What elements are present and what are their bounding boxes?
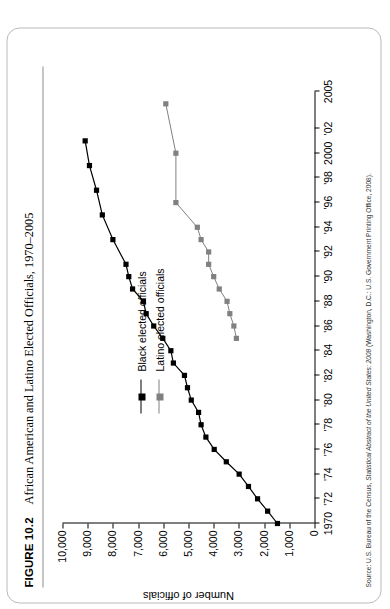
legend-item: Black elected officials xyxy=(132,268,150,413)
y-tick-label: 8,000 xyxy=(107,530,118,556)
x-axis-line xyxy=(314,91,315,523)
series-marker xyxy=(126,274,131,279)
x-tick-label: 1970 xyxy=(322,511,333,534)
legend-label: Black elected officials xyxy=(135,271,147,371)
y-tick xyxy=(238,523,239,528)
y-tick-label: 2,000 xyxy=(258,530,269,556)
y-tick xyxy=(62,523,63,528)
figure-number: FIGURE 10.2 xyxy=(22,517,34,587)
rotated-figure-canvas: FIGURE 10.2African American and Latino E… xyxy=(0,0,390,609)
y-tick xyxy=(112,523,113,528)
y-tick xyxy=(163,523,164,528)
x-tick xyxy=(314,522,319,523)
series-marker xyxy=(227,311,232,316)
x-tick-label: '02 xyxy=(322,121,333,135)
x-tick xyxy=(314,250,319,251)
x-tick xyxy=(314,152,319,153)
x-tick-label: '78 xyxy=(322,417,333,431)
series-marker xyxy=(224,298,229,303)
x-tick-label: '86 xyxy=(322,319,333,333)
series-marker xyxy=(216,286,221,291)
x-tick xyxy=(314,201,319,202)
legend-swatch xyxy=(152,379,166,413)
chart-series-layer xyxy=(62,91,314,523)
x-tick xyxy=(314,90,319,91)
y-tick xyxy=(213,523,214,528)
x-tick-label: '90 xyxy=(322,269,333,283)
y-tick xyxy=(289,523,290,528)
x-tick-label: '80 xyxy=(322,393,333,407)
y-tick-label: 7,000 xyxy=(132,530,143,556)
x-tick-label: '74 xyxy=(322,467,333,481)
series-marker xyxy=(184,385,189,390)
x-tick xyxy=(314,473,319,474)
series-marker xyxy=(236,471,241,476)
series-marker xyxy=(181,372,186,377)
series-marker xyxy=(99,212,104,217)
y-tick xyxy=(188,523,189,528)
series-marker xyxy=(194,224,199,229)
legend-marker xyxy=(156,393,163,400)
series-marker xyxy=(254,496,259,501)
series-marker xyxy=(223,459,228,464)
figure-source-note: Source: U.S. Bureau of the Census, Stati… xyxy=(364,42,371,587)
y-tick-label: 5,000 xyxy=(183,530,194,556)
series-marker xyxy=(110,237,115,242)
series-marker xyxy=(206,261,211,266)
x-tick-label: '92 xyxy=(322,245,333,259)
x-tick xyxy=(314,127,319,128)
x-tick-label: '94 xyxy=(322,220,333,234)
series-marker xyxy=(123,261,128,266)
x-tick xyxy=(314,448,319,449)
series-marker xyxy=(86,162,91,167)
series-marker xyxy=(163,101,168,106)
x-tick-label: '82 xyxy=(322,368,333,382)
x-tick xyxy=(314,399,319,400)
series-marker xyxy=(188,397,193,402)
chart-legend: Black elected officialsLatino elected of… xyxy=(132,268,168,413)
series-marker xyxy=(198,237,203,242)
y-tick-label: 0 xyxy=(309,530,320,536)
series-line xyxy=(85,140,277,523)
y-tick-label: 6,000 xyxy=(158,530,169,556)
series-marker xyxy=(170,360,175,365)
series-marker xyxy=(195,409,200,414)
x-tick xyxy=(314,497,319,498)
series-marker xyxy=(173,150,178,155)
series-marker xyxy=(198,422,203,427)
y-tick xyxy=(314,523,315,528)
x-tick xyxy=(314,226,319,227)
x-tick-label: '84 xyxy=(322,343,333,357)
figure-page: FIGURE 10.2African American and Latino E… xyxy=(0,0,390,609)
series-marker xyxy=(233,335,238,340)
x-tick-label: 2005 xyxy=(322,79,333,102)
series-marker xyxy=(231,323,236,328)
series-marker xyxy=(265,508,270,513)
legend-swatch xyxy=(134,379,148,413)
page-title: African American and Latino Elected Offi… xyxy=(21,212,35,504)
y-tick-label: 9,000 xyxy=(82,530,93,556)
series-marker xyxy=(211,446,216,451)
series-marker xyxy=(93,187,98,192)
x-tick-label: '98 xyxy=(322,171,333,185)
series-marker xyxy=(206,249,211,254)
x-tick-label: '76 xyxy=(322,442,333,456)
y-tick xyxy=(264,523,265,528)
x-tick xyxy=(314,423,319,424)
y-axis-title: Number of officials xyxy=(143,589,234,601)
x-tick-label: '96 xyxy=(322,195,333,209)
legend-marker xyxy=(138,393,145,400)
figure-title-bar: FIGURE 10.2African American and Latino E… xyxy=(18,67,44,587)
y-tick xyxy=(87,523,88,528)
y-tick-label: 1,000 xyxy=(284,530,295,556)
y-tick-label: 4,000 xyxy=(208,530,219,556)
x-tick-label: 2000 xyxy=(322,141,333,164)
x-tick-label: '88 xyxy=(322,294,333,308)
x-tick xyxy=(314,275,319,276)
legend-item: Latino elected officials xyxy=(150,268,168,413)
legend-label: Latino elected officials xyxy=(153,268,165,371)
series-marker xyxy=(203,434,208,439)
title-divider xyxy=(42,66,43,587)
x-tick xyxy=(314,176,319,177)
series-marker xyxy=(82,138,87,143)
